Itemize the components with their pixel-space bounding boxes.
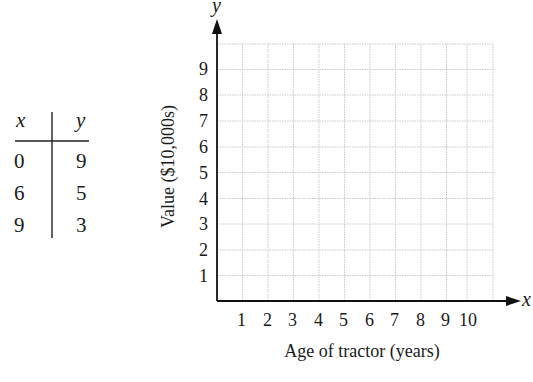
x-tick-label: 5 bbox=[339, 311, 348, 329]
x-tick-label: 6 bbox=[365, 311, 374, 329]
x-axis-symbol: x bbox=[522, 288, 531, 311]
y-tick-label: 6 bbox=[199, 138, 208, 156]
x-axis-title: Age of tractor (years) bbox=[272, 341, 452, 362]
grid bbox=[217, 44, 493, 301]
y-tick-label: 2 bbox=[199, 241, 208, 259]
x-tick-label: 2 bbox=[263, 311, 272, 329]
y-tick-label: 3 bbox=[199, 215, 208, 233]
y-tick-label: 1 bbox=[199, 267, 208, 285]
y-tick-label: 4 bbox=[199, 190, 208, 208]
x-tick-label: 10 bbox=[459, 311, 477, 329]
y-tick-label: 7 bbox=[199, 112, 208, 130]
x-tick-label: 4 bbox=[314, 311, 323, 329]
y-axis-title: Value ($10,000s) bbox=[158, 87, 179, 247]
y-tick-label: 9 bbox=[199, 60, 208, 78]
x-axis-arrow-icon bbox=[506, 296, 521, 306]
x-tick-label: 3 bbox=[288, 311, 297, 329]
y-axis-arrow-icon bbox=[212, 19, 222, 34]
y-tick-label: 8 bbox=[199, 86, 208, 104]
x-tick-label: 7 bbox=[390, 311, 399, 329]
y-axis-symbol: y bbox=[212, 0, 221, 17]
y-tick-label: 5 bbox=[199, 164, 208, 182]
x-tick-label: 9 bbox=[441, 311, 450, 329]
x-tick-label: 8 bbox=[416, 311, 425, 329]
x-tick-label: 1 bbox=[237, 311, 246, 329]
